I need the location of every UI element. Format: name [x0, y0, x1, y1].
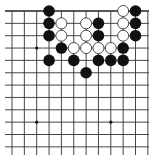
stones-layer	[43, 5, 141, 78]
white-stone	[81, 30, 92, 41]
black-stone	[93, 55, 105, 67]
black-stone	[43, 55, 55, 67]
black-stone	[93, 18, 105, 30]
white-stone	[56, 30, 67, 41]
black-stone	[56, 42, 68, 54]
black-stone	[130, 5, 142, 17]
white-stone	[118, 6, 129, 17]
black-stone	[43, 30, 55, 42]
black-stone	[105, 55, 117, 67]
black-stone	[117, 55, 129, 67]
black-stone	[93, 30, 105, 42]
white-stone	[93, 43, 104, 54]
black-stone	[117, 42, 129, 54]
white-stone	[81, 18, 92, 29]
white-stone	[118, 18, 129, 29]
go-board[interactable]	[0, 0, 149, 155]
white-stone	[105, 43, 116, 54]
black-stone	[43, 18, 55, 30]
black-stone	[80, 67, 92, 79]
black-stone	[68, 55, 80, 67]
black-stone	[130, 18, 142, 30]
black-stone	[43, 5, 55, 17]
star-point-icon	[109, 121, 112, 124]
black-stone	[130, 30, 142, 42]
star-point-icon	[35, 46, 38, 49]
star-point-icon	[35, 121, 38, 124]
white-stone	[56, 18, 67, 29]
white-stone	[118, 30, 129, 41]
white-stone	[81, 43, 92, 54]
white-stone	[68, 43, 79, 54]
